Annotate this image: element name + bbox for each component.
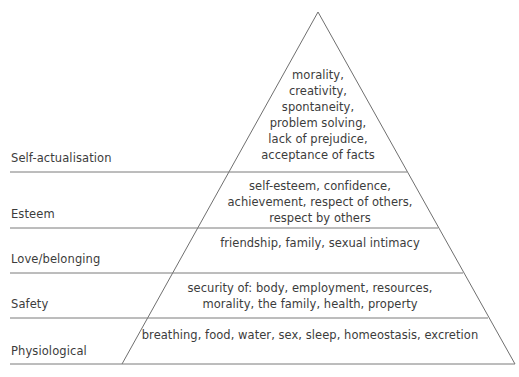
tier-content-line: friendship, family, sexual intimacy	[180, 235, 460, 251]
tier-content-line: breathing, food, water, sex, sleep, home…	[130, 327, 490, 343]
tier-content-line: creativity,	[228, 83, 408, 99]
tier-label-safety: Safety	[11, 297, 48, 311]
tier-content-line: problem solving,	[228, 115, 408, 131]
tier-label-physiological: Physiological	[11, 344, 87, 358]
tier-content-line: morality,	[228, 67, 408, 83]
tier-content-line: acceptance of facts	[228, 147, 408, 163]
tier-label-love-belonging: Love/belonging	[11, 252, 100, 266]
tier-content-self-actualisation: morality, creativity, spontaneity, probl…	[228, 67, 408, 163]
tier-content-line: self-esteem, confidence,	[200, 178, 440, 194]
tier-content-safety: security of: body, employment, resources…	[150, 280, 470, 312]
tier-content-line: respect by others	[200, 210, 440, 226]
tier-content-line: morality, the family, health, property	[150, 296, 470, 312]
maslow-pyramid-diagram: Self-actualisation Esteem Love/belonging…	[0, 0, 519, 377]
tier-content-line: security of: body, employment, resources…	[150, 280, 470, 296]
tier-label-self-actualisation: Self-actualisation	[11, 151, 112, 165]
tier-content-line: lack of prejudice,	[228, 131, 408, 147]
tier-content-esteem: self-esteem, confidence, achievement, re…	[200, 178, 440, 226]
tier-content-love-belonging: friendship, family, sexual intimacy	[180, 235, 460, 251]
tier-content-line: achievement, respect of others,	[200, 194, 440, 210]
tier-label-esteem: Esteem	[11, 207, 55, 221]
tier-content-line: spontaneity,	[228, 99, 408, 115]
tier-content-physiological: breathing, food, water, sex, sleep, home…	[130, 327, 490, 343]
